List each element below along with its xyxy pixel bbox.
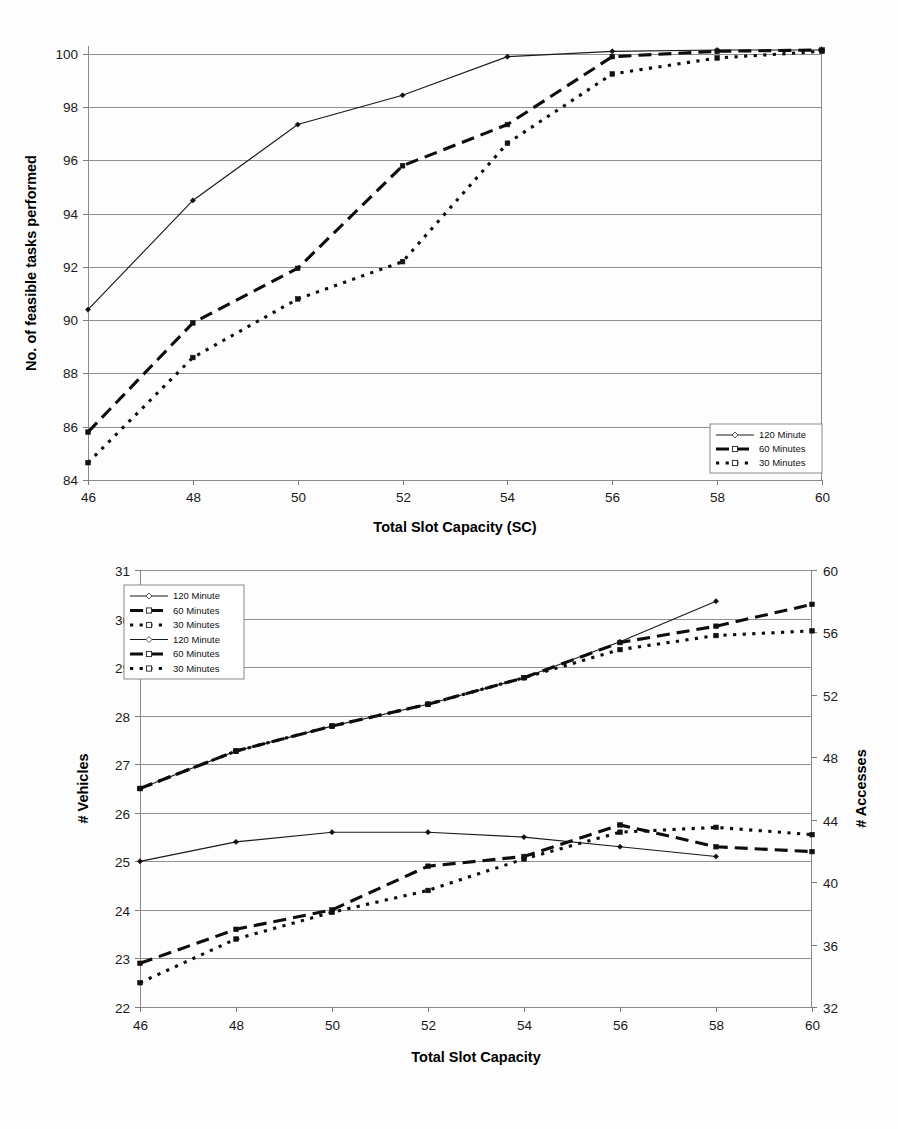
series-2-vehicles <box>138 823 815 966</box>
legend: 120 Minute60 Minutes30 Minutes <box>710 424 822 473</box>
data-point <box>810 602 815 607</box>
data-point <box>425 830 430 835</box>
series-2 <box>86 48 825 435</box>
series-line <box>140 825 812 963</box>
data-point <box>234 927 239 932</box>
data-point <box>505 122 510 127</box>
x-tick-label-56: 56 <box>605 490 620 505</box>
series-line <box>88 50 822 310</box>
data-point <box>400 164 405 169</box>
chart-2-canvas: 2223242526272829303132364044485256604648… <box>0 540 898 1129</box>
legend-marker-square <box>146 651 151 656</box>
data-point <box>330 910 335 915</box>
legend-marker-square <box>732 460 737 465</box>
data-point <box>426 702 431 707</box>
data-point <box>522 675 527 680</box>
series-1-vehicles <box>137 830 718 864</box>
data-point <box>810 629 815 634</box>
data-point <box>618 823 623 828</box>
data-point <box>713 599 718 604</box>
y-tick-label-92: 92 <box>63 260 78 275</box>
y-tick-label-100: 100 <box>55 47 78 62</box>
data-point <box>426 888 431 893</box>
x-tick-label-54: 54 <box>517 1018 533 1033</box>
x-tick-label-48: 48 <box>229 1018 244 1033</box>
data-point <box>521 834 526 839</box>
legend-marker-square <box>146 608 151 613</box>
y-left-tick-label-26: 26 <box>115 807 130 822</box>
y-right-tick-label-52: 52 <box>823 689 838 704</box>
y-tick-label-94: 94 <box>63 207 79 222</box>
data-point <box>505 141 510 146</box>
x-tick-label-54: 54 <box>500 490 516 505</box>
x-axis-title: Total Slot Capacity (SC) <box>373 519 536 535</box>
legend-label-6: 30 Minutes <box>173 663 220 674</box>
y-tick-label-96: 96 <box>63 153 78 168</box>
legend-label-5: 60 Minutes <box>173 648 220 659</box>
y-tick-label-84: 84 <box>63 473 79 488</box>
y-axis-title: No. of feasible tasks performed <box>23 155 39 371</box>
data-point <box>330 724 335 729</box>
x-tick-label-52: 52 <box>421 1018 436 1033</box>
legend: 120 Minute60 Minutes30 Minutes120 Minute… <box>124 585 244 679</box>
legend-label-3: 30 Minutes <box>759 457 806 468</box>
y-axis-title-left: # Vehicles <box>75 753 91 823</box>
data-point <box>810 832 815 837</box>
data-point <box>618 647 623 652</box>
y-right-tick-label-48: 48 <box>823 751 838 766</box>
data-point <box>617 844 622 849</box>
data-point <box>329 830 334 835</box>
data-point <box>714 624 719 629</box>
data-point <box>715 56 720 61</box>
y-right-tick-label-32: 32 <box>823 1001 838 1016</box>
data-point <box>618 640 623 645</box>
x-tick-label-58: 58 <box>709 1018 724 1033</box>
legend-label-1: 120 Minute <box>759 429 806 440</box>
data-point <box>295 266 300 271</box>
data-point <box>86 430 91 435</box>
data-point <box>138 980 143 985</box>
x-tick-label-58: 58 <box>710 490 725 505</box>
y-tick-label-90: 90 <box>63 313 78 328</box>
data-point <box>138 961 143 966</box>
data-point <box>714 633 719 638</box>
data-point <box>610 49 615 54</box>
data-point <box>400 259 405 264</box>
data-point <box>295 297 300 302</box>
series-3 <box>86 49 825 465</box>
x-tick-label-46: 46 <box>81 490 96 505</box>
x-tick-label-56: 56 <box>613 1018 628 1033</box>
data-point <box>714 825 719 830</box>
y-left-tick-label-22: 22 <box>115 1001 130 1016</box>
x-tick-label-60: 60 <box>805 1018 820 1033</box>
legend-label-2: 60 Minutes <box>759 443 806 454</box>
series-line <box>88 51 822 462</box>
data-point <box>810 849 815 854</box>
x-axis-title: Total Slot Capacity <box>411 1049 540 1065</box>
series-line <box>140 832 716 861</box>
legend-label-4: 120 Minute <box>173 634 220 645</box>
data-point <box>137 859 142 864</box>
x-tick-label-50: 50 <box>325 1018 340 1033</box>
chart-feasible-tasks: 84868890929496981004648505254565860Total… <box>0 0 898 540</box>
data-point <box>610 54 615 59</box>
y-right-tick-label-44: 44 <box>823 814 839 829</box>
series-line <box>140 827 812 982</box>
chart-1-canvas: 84868890929496981004648505254565860Total… <box>0 0 898 540</box>
y-tick-label-88: 88 <box>63 366 78 381</box>
x-tick-label-46: 46 <box>133 1018 148 1033</box>
series-3-vehicles <box>138 825 815 985</box>
series-1 <box>85 47 824 312</box>
data-point <box>234 937 239 942</box>
x-tick-label-60: 60 <box>815 490 830 505</box>
x-tick-label-48: 48 <box>186 490 201 505</box>
data-point <box>618 830 623 835</box>
data-point <box>610 72 615 77</box>
gridlines <box>83 55 822 481</box>
data-point <box>522 857 527 862</box>
data-point <box>400 93 405 98</box>
data-point <box>191 321 196 326</box>
y-left-tick-label-27: 27 <box>115 758 130 773</box>
data-point <box>820 49 825 54</box>
y-left-tick-label-28: 28 <box>115 710 130 725</box>
